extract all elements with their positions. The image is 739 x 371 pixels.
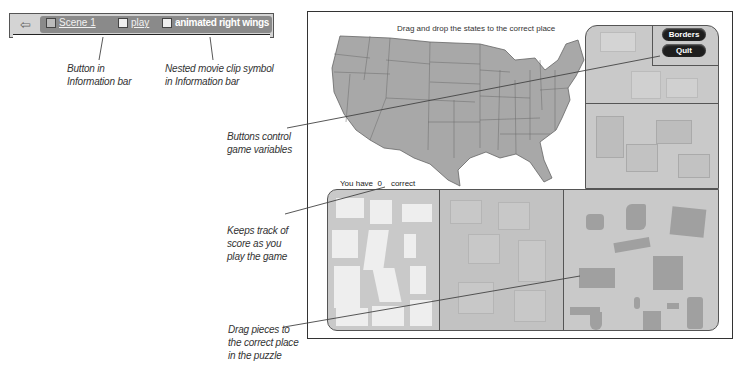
callout-lines bbox=[0, 0, 739, 371]
